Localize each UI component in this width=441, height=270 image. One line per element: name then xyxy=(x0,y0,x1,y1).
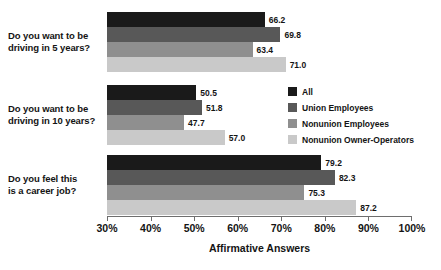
bar-row: 71.0 xyxy=(107,57,412,72)
legend-label-0: All xyxy=(302,87,313,97)
bar-value-label: 57.0 xyxy=(225,133,246,143)
bar-group-2: 79.282.375.387.2 xyxy=(107,155,412,215)
bar[interactable] xyxy=(107,27,280,42)
bar-row: 69.8 xyxy=(107,27,412,42)
bar-row: 63.4 xyxy=(107,42,412,57)
category-label-1-line-0: Do you want to be xyxy=(8,103,104,115)
x-axis-tick xyxy=(411,216,412,221)
bar-row: 87.2 xyxy=(107,200,412,215)
category-label-1-line-1: driving in 10 years? xyxy=(8,115,104,127)
x-axis-tick xyxy=(107,216,108,221)
bar[interactable] xyxy=(107,85,196,100)
bar[interactable] xyxy=(107,185,304,200)
x-axis-tick-label: 90% xyxy=(358,222,379,234)
bar[interactable] xyxy=(107,170,335,185)
bar-group-0: 66.269.863.471.0 xyxy=(107,12,412,72)
bar-row: 66.2 xyxy=(107,12,412,27)
x-axis-line xyxy=(107,216,412,217)
x-axis-tick-label: 60% xyxy=(227,222,248,234)
legend-label-2: Nonunion Employees xyxy=(302,119,389,129)
bar[interactable] xyxy=(107,130,225,145)
legend: All Union Employees Nonunion Employees N… xyxy=(288,84,414,148)
x-axis-tick xyxy=(281,216,282,221)
bar-row: 79.2 xyxy=(107,155,412,170)
x-axis-tick xyxy=(325,216,326,221)
bar[interactable] xyxy=(107,12,265,27)
bar[interactable] xyxy=(107,115,184,130)
legend-item-nonunion-employees[interactable]: Nonunion Employees xyxy=(288,116,414,131)
legend-label-1: Union Employees xyxy=(302,103,373,113)
bar-value-label: 87.2 xyxy=(356,203,377,213)
x-axis-tick-label: 70% xyxy=(271,222,292,234)
x-axis-title: Affirmative Answers xyxy=(107,242,412,254)
x-axis-tick-label: 80% xyxy=(314,222,335,234)
x-axis-tick xyxy=(151,216,152,221)
bar-value-label: 63.4 xyxy=(253,45,274,55)
bar-value-label: 79.2 xyxy=(321,158,342,168)
x-axis-tick-label: 40% xyxy=(140,222,161,234)
bar[interactable] xyxy=(107,155,321,170)
legend-item-nonunion-owner-operators[interactable]: Nonunion Owner-Operators xyxy=(288,132,414,147)
legend-item-all[interactable]: All xyxy=(288,84,414,99)
category-label-2: Do you feel this is a career job? xyxy=(8,173,104,197)
x-axis-tick xyxy=(238,216,239,221)
category-label-1: Do you want to be driving in 10 years? xyxy=(8,103,104,127)
category-label-0-line-0: Do you want to be xyxy=(8,30,104,42)
bar-value-label: 69.8 xyxy=(280,30,301,40)
legend-swatch-icon-0 xyxy=(288,87,297,96)
bar[interactable] xyxy=(107,42,253,57)
legend-swatch-icon-3 xyxy=(288,135,297,144)
bar[interactable] xyxy=(107,100,202,115)
bar-value-label: 82.3 xyxy=(335,173,356,183)
legend-swatch-icon-1 xyxy=(288,103,297,112)
bar-row: 75.3 xyxy=(107,185,412,200)
category-label-0: Do you want to be driving in 5 years? xyxy=(8,30,104,54)
legend-item-union-employees[interactable]: Union Employees xyxy=(288,100,414,115)
category-label-2-line-1: is a career job? xyxy=(8,185,104,197)
x-axis-tick-label: 100% xyxy=(399,222,426,234)
category-label-0-line-1: driving in 5 years? xyxy=(8,42,104,54)
bar-row: 82.3 xyxy=(107,170,412,185)
bar-value-label: 51.8 xyxy=(202,103,223,113)
bar[interactable] xyxy=(107,57,286,72)
bar-value-label: 75.3 xyxy=(304,188,325,198)
x-axis-tick xyxy=(368,216,369,221)
legend-swatch-icon-2 xyxy=(288,119,297,128)
x-axis-tick-label: 30% xyxy=(96,222,117,234)
bar-value-label: 71.0 xyxy=(286,60,307,70)
category-label-2-line-0: Do you feel this xyxy=(8,173,104,185)
bar[interactable] xyxy=(107,200,356,215)
x-axis-tick xyxy=(194,216,195,221)
bar-value-label: 47.7 xyxy=(184,118,205,128)
bar-value-label: 50.5 xyxy=(196,88,217,98)
bar-chart: Do you want to be driving in 5 years? Do… xyxy=(0,0,441,270)
bar-value-label: 66.2 xyxy=(265,15,286,25)
legend-label-3: Nonunion Owner-Operators xyxy=(302,135,414,145)
x-axis-tick-label: 50% xyxy=(184,222,205,234)
